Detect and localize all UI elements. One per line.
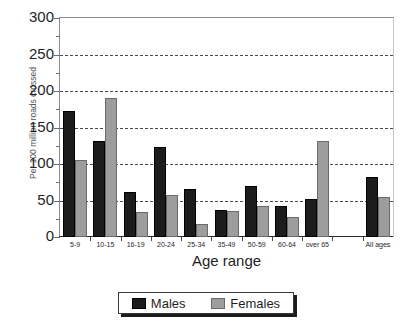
bar-females-All ages <box>378 197 390 237</box>
legend-label-males: Males <box>151 297 186 310</box>
x-axis-tick-label: 60-64 <box>278 240 296 249</box>
y-axis-tick-mark <box>54 91 60 92</box>
chart-legend: Males Females <box>118 292 294 314</box>
bar-females-5-9 <box>75 160 87 237</box>
plot-inner <box>60 18 393 237</box>
bar-females-60-64 <box>287 217 299 237</box>
bar-males-All ages <box>366 177 378 237</box>
bar-females-20-24 <box>166 195 178 237</box>
y-axis-tick-labels: 050100150200250300 <box>8 10 54 242</box>
y-axis-tick-mark <box>54 237 60 238</box>
bar-males-20-24 <box>154 147 166 237</box>
bar-females-50-59 <box>257 206 269 237</box>
x-axis-tick-label: 35-49 <box>218 240 236 249</box>
bar-males-35-49 <box>215 210 227 237</box>
y-axis-minor-tick-mark <box>56 36 60 37</box>
y-axis-tick-mark <box>54 164 60 165</box>
y-axis-tick-label: 0 <box>8 228 54 243</box>
y-axis-minor-tick-mark <box>56 182 60 183</box>
x-axis-tick-label: All ages <box>365 240 390 249</box>
x-axis-tick-label: 10-15 <box>96 240 114 249</box>
gridline <box>60 55 393 56</box>
x-axis-title: Age range <box>60 252 393 269</box>
x-axis-tick-label: 50-59 <box>248 240 266 249</box>
y-axis-tick-label: 150 <box>8 119 54 134</box>
y-axis-tick-mark <box>54 128 60 129</box>
plot-area <box>60 17 394 237</box>
x-axis-tick-label: 20-24 <box>157 240 175 249</box>
bar-females-25-34 <box>196 224 208 237</box>
y-axis-tick-mark <box>54 201 60 202</box>
y-axis-tick-label: 50 <box>8 192 54 207</box>
bar-males-60-64 <box>275 206 287 237</box>
y-axis-tick-label: 100 <box>8 155 54 170</box>
y-axis-minor-tick-mark <box>56 73 60 74</box>
y-axis-minor-tick-mark <box>56 146 60 147</box>
bar-females-over 65 <box>317 141 329 237</box>
y-axis-tick-label: 300 <box>8 9 54 24</box>
bar-females-16-19 <box>136 212 148 237</box>
legend-label-females: Females <box>230 297 280 310</box>
bar-males-over 65 <box>305 199 317 237</box>
y-axis-tick-label: 250 <box>8 46 54 61</box>
x-axis-tick-label: over 65 <box>306 240 329 249</box>
bar-males-16-19 <box>124 192 136 237</box>
y-axis-tick-mark <box>54 55 60 56</box>
bar-males-10-15 <box>93 141 105 237</box>
legend-entry-females: Females <box>211 297 280 310</box>
y-axis-minor-tick-mark <box>56 109 60 110</box>
legend-swatch-males-icon <box>132 298 146 309</box>
legend-entry-males: Males <box>132 297 186 310</box>
x-axis-tick-label: 16-19 <box>127 240 145 249</box>
bar-chart-figure: Per 100 million roads crossed 0501001502… <box>0 0 406 323</box>
legend-swatch-females-icon <box>211 298 225 309</box>
bar-females-35-49 <box>227 211 239 237</box>
bar-males-5-9 <box>63 111 75 237</box>
bar-males-50-59 <box>245 186 257 237</box>
x-axis-tick-label: 5-9 <box>70 240 80 249</box>
x-axis-tick-label: 25-34 <box>187 240 205 249</box>
y-axis-minor-tick-mark <box>56 219 60 220</box>
y-axis-tick-mark <box>54 18 60 19</box>
bar-males-25-34 <box>184 189 196 237</box>
gridline <box>60 91 393 92</box>
bar-females-10-15 <box>105 98 117 237</box>
y-axis-tick-label: 200 <box>8 82 54 97</box>
